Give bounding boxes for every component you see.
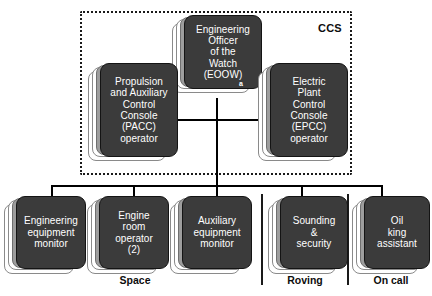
node-label-epcc: Electric Plant Control Console (EPCC) op… xyxy=(287,76,331,144)
ccs-region-label: CCS xyxy=(318,22,342,34)
node-sounding-and-security[interactable]: Sounding & security xyxy=(268,196,352,274)
node-label-engine-room-operator: Engine room operator (2) xyxy=(112,210,156,256)
node-oil-king-assistant[interactable]: Oil king assistant xyxy=(352,196,432,274)
node-pacc-operator[interactable]: Propulsion and Auxiliary Control Console… xyxy=(88,63,180,163)
node-card-pacc[interactable]: Propulsion and Auxiliary Control Console… xyxy=(100,63,178,157)
group-divider-space-roving xyxy=(261,194,263,285)
diagram-canvas: CCS Engineering Officer of the Watch (EO… xyxy=(0,0,432,296)
node-card-oil-king-assistant[interactable]: Oil king assistant xyxy=(364,196,430,269)
connector-pacc-epcc-horizontal xyxy=(166,119,272,121)
eoow-footnote-marker: a xyxy=(239,80,243,87)
node-label-sounding-and-security: Sounding & security xyxy=(290,215,339,249)
connector-eoow-vertical xyxy=(216,98,218,186)
node-card-auxiliary-equipment-monitor[interactable]: Auxiliary equipment monitor xyxy=(182,196,252,269)
node-engineering-officer-of-the-watch[interactable]: Engineering Officer of the Watch (EOOW) xyxy=(172,15,262,93)
node-card-engine-room-operator[interactable]: Engine room operator (2) xyxy=(99,196,169,269)
group-label-on-call: On call xyxy=(360,274,422,286)
node-epcc-operator[interactable]: Electric Plant Control Console (EPCC) op… xyxy=(258,63,350,163)
node-label-pacc: Propulsion and Auxiliary Control Console… xyxy=(107,76,170,144)
node-label-auxiliary-equipment-monitor: Auxiliary equipment monitor xyxy=(190,215,243,249)
node-card-engineering-equipment-monitor[interactable]: Engineering equipment monitor xyxy=(16,196,86,269)
node-engine-room-operator[interactable]: Engine room operator (2) xyxy=(87,196,171,274)
group-label-roving: Roving xyxy=(274,274,336,286)
node-label-oil-king-assistant: Oil king assistant xyxy=(374,215,420,249)
node-label-eoow: Engineering Officer of the Watch (EOOW) xyxy=(193,24,253,81)
node-card-eoow[interactable]: Engineering Officer of the Watch (EOOW) xyxy=(184,15,262,89)
node-engineering-equipment-monitor[interactable]: Engineering equipment monitor xyxy=(4,196,88,274)
node-auxiliary-equipment-monitor[interactable]: Auxiliary equipment monitor xyxy=(170,196,254,274)
node-card-sounding-and-security[interactable]: Sounding & security xyxy=(280,196,348,269)
node-label-engineering-equipment-monitor: Engineering equipment monitor xyxy=(21,215,81,249)
node-card-epcc[interactable]: Electric Plant Control Console (EPCC) op… xyxy=(270,63,348,157)
group-label-space: Space xyxy=(104,274,166,286)
